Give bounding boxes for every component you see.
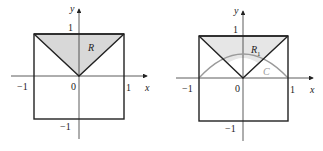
x-axis-label: x [144, 82, 150, 93]
tick-y-neg: −1 [60, 121, 71, 132]
figure-left: y x 1 0 −1 1 −1 R [11, 3, 150, 139]
tick-y-pos: 1 [68, 22, 73, 33]
tick-y-pos: 1 [233, 24, 238, 35]
y-axis-label: y [69, 3, 75, 14]
diagram-canvas: y x 1 0 −1 1 −1 R y x 1 0 −1 1 −1 R1 C [0, 0, 323, 151]
curve-label: C [263, 66, 270, 77]
figure-right: y x 1 0 −1 1 −1 R1 C [176, 5, 315, 141]
tick-x-pos: 1 [290, 84, 295, 95]
tick-origin: 0 [235, 83, 240, 94]
tick-y-neg: −1 [225, 123, 236, 134]
x-axis-label: x [309, 84, 315, 95]
region-label: R [87, 42, 94, 53]
tick-x-pos: 1 [126, 82, 131, 93]
tick-origin: 0 [71, 81, 76, 92]
tick-x-neg: −1 [182, 83, 193, 94]
y-axis-label: y [233, 5, 239, 16]
tick-x-neg: −1 [17, 81, 28, 92]
